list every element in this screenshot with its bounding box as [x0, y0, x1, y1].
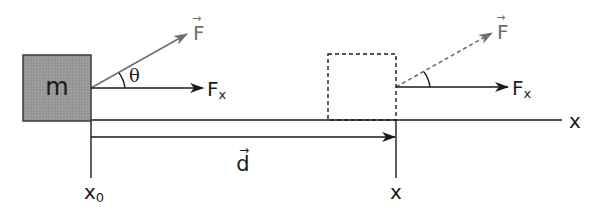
work-diagram: x m x0 x d → F →: [0, 0, 601, 214]
initial-position-marker: x0: [84, 121, 104, 205]
mass-block: m: [23, 55, 91, 121]
final-position-marker: x: [390, 120, 402, 204]
position-x-label: x: [390, 180, 402, 204]
initial-force-vector-mark: →: [192, 12, 201, 25]
initial-force-vector: F →: [91, 12, 205, 88]
initial-force-x-component: Fx: [91, 77, 227, 102]
theta-label: θ: [129, 65, 140, 86]
displacement-vector: d →: [91, 137, 395, 176]
axis-x-label: x: [569, 109, 581, 133]
displacement-vector-mark: →: [239, 143, 249, 157]
initial-fx-label: Fx: [207, 77, 227, 102]
final-angle: [424, 72, 430, 87]
x-axis: x: [91, 109, 581, 133]
initial-angle: θ: [119, 65, 140, 88]
final-fx-label: Fx: [512, 76, 532, 101]
final-force-x-component: Fx: [396, 76, 532, 101]
final-force-vector: F →: [396, 11, 509, 87]
position-x0-label: x0: [84, 180, 104, 205]
final-force-vector-mark: →: [496, 11, 505, 24]
mass-label: m: [45, 73, 68, 101]
final-block-outline: [328, 54, 396, 120]
